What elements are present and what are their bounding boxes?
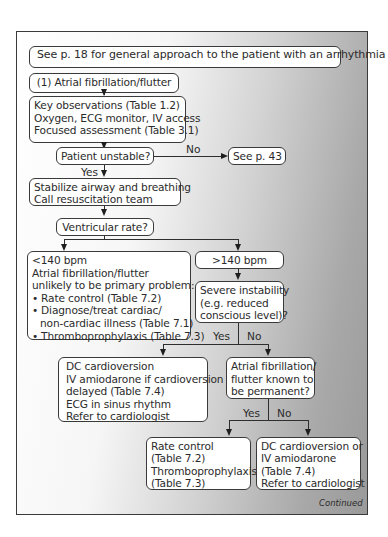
low-rate-bullet: Rate control (Table 7.2) [32, 292, 186, 305]
connector-no [154, 156, 221, 157]
severe-instability-box: Severe instability (e.g. reduced conscio… [195, 281, 284, 323]
dc-cardioversion-line: ECG in sinus rhythm [66, 398, 203, 411]
dc-or-amiodarone-line: Refer to cardiologist [261, 477, 356, 489]
dc-or-amiodarone-line: (Table 7.4) [261, 465, 356, 477]
arrow-down-icon [226, 429, 232, 436]
see-p43-box: See p. 43 [228, 147, 286, 165]
dc-cardioversion-line: delayed (Table 7.4) [66, 385, 203, 398]
key-observations-line: Oxygen, ECG monitor, IV access [34, 112, 181, 125]
low-rate-bullet: Diagnose/treat cardiac/ [32, 304, 186, 317]
low-rate-line: <140 bpm [32, 254, 186, 267]
yes-label: Yes [243, 407, 260, 419]
arrow-down-icon [101, 209, 107, 216]
arrow-down-icon [235, 273, 241, 280]
low-rate-bullet: Thromboprophylaxis (Table 7.3) [32, 330, 186, 343]
dc-cardioversion-line: DC cardioversion [66, 360, 203, 373]
dc-cardioversion-line: IV amiodarone if cardioversion [66, 373, 203, 386]
severe-instability-line: conscious level)? [200, 309, 279, 322]
arrow-down-icon [101, 170, 107, 177]
split-line [163, 344, 269, 345]
key-observations-line: Focused assessment (Table 3.1) [34, 124, 181, 137]
low-rate-line: Atrial fibrillation/flutter [32, 267, 186, 280]
arrow-down-icon [235, 244, 241, 251]
low-rate-line: unlikely to be primary problem: [32, 279, 186, 292]
dc-or-amiodarone-line: DC cardioversion or [261, 440, 356, 452]
no-label: No [247, 330, 261, 342]
key-observations-box: Key observations (Table 1.2) Oxygen, ECG… [29, 96, 186, 143]
patient-unstable-text: Patient unstable? [61, 150, 150, 162]
split-line [64, 239, 239, 240]
arrow-down-icon [101, 89, 107, 96]
arrow-down-icon [265, 349, 271, 356]
severe-instability-line: Severe instability [200, 284, 279, 297]
split-line [229, 420, 309, 421]
rate-control-box: Rate control (Table 7.2) Thromboprophyla… [146, 437, 251, 490]
no-label: No [277, 407, 291, 419]
arrow-down-icon [61, 244, 67, 251]
stabilize-box: Stabilize airway and breathing Call resu… [29, 178, 181, 206]
connector [229, 420, 230, 429]
no-label: No [186, 143, 200, 155]
low-rate-box: <140 bpm Atrial fibrillation/flutter unl… [27, 251, 191, 340]
rate-control-line: (Table 7.2) [151, 452, 246, 464]
general-approach-text: See p. 18 for general approach to the pa… [37, 48, 385, 61]
dc-cardioversion-line: Refer to cardiologist [66, 410, 203, 423]
rate-control-line: (Table 7.3) [151, 477, 246, 489]
dc-or-amiodarone-box: DC cardioversion or IV amiodarone (Table… [256, 437, 361, 490]
ventricular-rate-text: Ventricular rate? [62, 221, 147, 233]
dc-or-amiodarone-line: IV amiodarone [261, 452, 356, 464]
continued-label: Continued [319, 498, 363, 508]
rate-control-line: Thromboprophylaxis [151, 465, 246, 477]
yes-label: Yes [213, 330, 230, 342]
permanent-question-line: Atrial fibrillation/ [231, 360, 310, 373]
rate-control-line: Rate control [151, 440, 246, 452]
arrow-down-icon [160, 349, 166, 356]
stabilize-line: Stabilize airway and breathing [34, 181, 176, 193]
connector [268, 399, 269, 421]
low-rate-bullet-continuation: non-cardiac illness (Table 7.1) [32, 317, 186, 330]
ventricular-rate-box: Ventricular rate? [56, 218, 154, 236]
severe-instability-line: (e.g. reduced [200, 297, 279, 310]
high-rate-box: >140 bpm [195, 251, 284, 269]
arrow-right-icon [221, 153, 228, 159]
start-text: (1) Atrial fibrillation/flutter [37, 76, 172, 88]
arrow-down-icon [305, 429, 311, 436]
high-rate-text: >140 bpm [212, 254, 267, 266]
yes-label: Yes [81, 166, 98, 178]
connector [308, 420, 309, 429]
dc-cardioversion-box: DC cardioversion IV amiodarone if cardio… [58, 357, 208, 422]
stabilize-line: Call resuscitation team [34, 193, 176, 205]
permanent-question-line: be permanent? [231, 385, 310, 398]
patient-unstable-box: Patient unstable? [56, 147, 154, 165]
permanent-question-line: flutter known to [231, 373, 310, 386]
see-p43-text: See p. 43 [233, 150, 282, 162]
general-approach-box: See p. 18 for general approach to the pa… [29, 46, 341, 68]
key-observations-line: Key observations (Table 1.2) [34, 99, 181, 112]
connector [238, 323, 239, 345]
permanent-question-box: Atrial fibrillation/ flutter known to be… [226, 357, 315, 399]
